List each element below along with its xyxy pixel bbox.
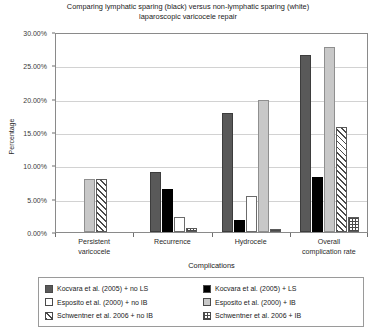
x-axis-category-label: Recurrence [133,238,211,248]
legend-item-label: Esposito et al. (2000) + no IB [57,299,147,306]
chart-title-line-1: Comparing lymphatic sparing (black) vers… [0,2,376,12]
bar [174,217,185,232]
legend-item[interactable]: Schwentner et al. 2006 + IB [203,309,357,323]
y-axis-tick-label: 20.00% [23,96,47,103]
legend-swatch-icon [203,312,211,320]
legend-swatch-icon [203,298,211,306]
y-axis-title: Percentage [8,107,15,167]
legend-item[interactable]: Kocvara et al. (2005) + LS [203,282,357,296]
bar [348,217,359,232]
legend-item[interactable]: Esposito et al. (2000) + no IB [45,296,199,310]
x-axis-category-label: Hydrocele [212,238,290,248]
legend-item-label: Esposito et al. (2000) + IB [215,299,296,306]
y-axis-tick-label: 25.00% [23,63,47,70]
chart-title-line-2: laparoscopic varicocele repair [0,12,376,22]
bar [258,100,269,232]
legend-item-label: Schwentner et al. 2006 + no IB [57,312,153,319]
legend-item[interactable]: Schwentner et al. 2006 + no IB [45,309,199,323]
bar-group [213,34,291,232]
bar [84,179,95,232]
legend-item-label: Schwentner et al. 2006 + IB [215,312,301,319]
bar [186,228,197,232]
x-axis-category-label: Persistentvaricocele [55,238,133,257]
bars-layer [56,34,367,232]
y-axis-tick-label: 30.00% [23,30,47,37]
bar [300,55,311,232]
bar [324,47,335,232]
bar-group [56,34,134,232]
x-axis-category-label-line: Overall [290,238,368,248]
legend-grid: Kocvara et al. (2005) + no LSKocvara et … [45,282,357,323]
x-axis-category-label-line: Recurrence [133,238,211,248]
chart-title: Comparing lymphatic sparing (black) vers… [0,2,376,22]
x-axis-tick-mark [212,233,213,237]
bar-group [291,34,369,232]
x-axis-category-label-line: Hydrocele [212,238,290,248]
x-axis-tick-mark [367,233,368,237]
bar [162,189,173,232]
legend-item-label: Kocvara et al. (2005) + no LS [57,285,148,292]
legend-swatch-icon [45,285,53,293]
x-axis-tick-mark [290,233,291,237]
x-axis-category-label-line: complication rate [290,248,368,258]
plot-area [55,33,368,233]
legend-item[interactable]: Kocvara et al. (2005) + no LS [45,282,199,296]
bar [96,179,107,232]
y-axis-tick-label: 0.00% [27,230,47,237]
legend-swatch-icon [45,298,53,306]
x-axis-category-label-line: Persistent [55,238,133,248]
bar [270,229,281,232]
bar-chart-figure: Comparing lymphatic sparing (black) vers… [0,0,376,334]
y-axis-tick-label: 15.00% [23,130,47,137]
y-axis-tick-label: 5.00% [27,196,47,203]
legend-swatch-icon [45,312,53,320]
bar [222,113,233,232]
bar [150,172,161,232]
x-axis-category-label-line: varicocele [55,248,133,258]
x-axis-tick-mark [133,233,134,237]
x-axis-tick-marks [55,233,368,237]
x-axis-category-label: Overallcomplication rate [290,238,368,257]
bar [312,177,323,232]
bar [336,127,347,232]
y-axis-tick-label: 10.00% [23,163,47,170]
legend-item[interactable]: Esposito et al. (2000) + IB [203,296,357,310]
chart-legend: Kocvara et al. (2005) + no LSKocvara et … [38,277,364,327]
bar [234,220,245,232]
x-axis-tick-mark [55,233,56,237]
legend-swatch-icon [203,285,211,293]
x-axis-title: Complications [55,261,368,270]
bar-group [134,34,212,232]
x-axis-category-labels: PersistentvaricoceleRecurrenceHydroceleO… [55,238,368,262]
legend-item-label: Kocvara et al. (2005) + LS [215,285,297,292]
bar [246,196,257,232]
